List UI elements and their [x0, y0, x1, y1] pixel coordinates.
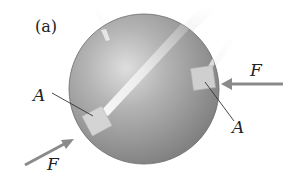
- panel-label: (a): [35, 19, 57, 35]
- sphere-stress-figure: (a) A A F F: [0, 0, 300, 185]
- point-label-left: A: [33, 87, 45, 104]
- point-label-right: A: [232, 119, 244, 136]
- force-label-left: F: [47, 156, 59, 173]
- force-label-right: F: [250, 62, 262, 79]
- patch-right: [191, 66, 216, 91]
